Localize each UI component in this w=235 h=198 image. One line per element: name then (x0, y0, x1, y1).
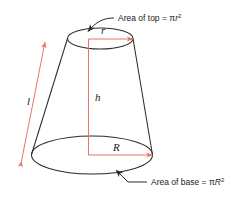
base-area-callout: Area of base = πR2 (151, 177, 225, 187)
slant-height-arrow (22, 42, 46, 161)
frustum-right-edge (133, 39, 153, 156)
base-radius-label: R (112, 141, 120, 153)
truncated-cone-figure: l h r R Area of top = πr2 Area of base =… (0, 0, 235, 198)
slant-height-label: l (27, 95, 30, 107)
dimension-annotations (22, 39, 153, 161)
frustum-body (32, 28, 153, 174)
top-area-prefix: Area of top = π (118, 13, 175, 23)
frustum-left-edge (32, 39, 68, 155)
base-area-prefix: Area of base = π (151, 177, 215, 187)
height-label: h (95, 91, 101, 103)
top-area-callout: Area of top = πr2 (118, 13, 182, 23)
top-area-exponent: 2 (178, 13, 182, 19)
base-area-exponent: 2 (221, 177, 225, 183)
top-radius-label: r (101, 24, 106, 36)
